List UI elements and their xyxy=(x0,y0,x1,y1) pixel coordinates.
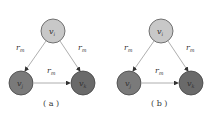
edge-i-k-label: rm xyxy=(78,43,87,53)
edge-i-j-label: rm xyxy=(124,43,133,53)
edge-j-k-label: rm xyxy=(155,66,164,76)
diagram-canvas: vi vj vk rm rm rm ( a ) vi vj vk rm rm r… xyxy=(0,0,213,117)
caption-b: ( b ) xyxy=(151,99,167,108)
edge-i-k-label: rm xyxy=(186,43,195,53)
edge-i-j-label: rm xyxy=(16,43,25,53)
edge-j-k-label: rm xyxy=(47,66,56,76)
panel-b: vi vj vk rm rm rm ( b ) xyxy=(117,19,203,108)
edge-i-k xyxy=(168,41,188,71)
edge-i-j xyxy=(25,41,46,71)
edge-i-k xyxy=(60,41,80,71)
caption-a: ( a ) xyxy=(43,99,59,108)
panel-a: vi vj vk rm rm rm ( a ) xyxy=(9,19,95,108)
edge-i-j xyxy=(133,41,154,71)
